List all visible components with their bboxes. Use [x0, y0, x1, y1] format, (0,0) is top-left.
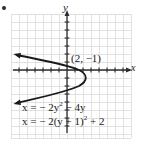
equation-vertex-suffix: + 2	[87, 115, 104, 127]
vertex-point-label: (2, −1)	[71, 53, 101, 64]
list-bullet	[2, 6, 6, 10]
equation-standard-suffix: − 4y	[63, 101, 86, 113]
equation-vertex-form: x = − 2(y + 1)2 + 2	[22, 115, 104, 127]
equation-standard-prefix: x = − 2y	[22, 101, 59, 113]
x-axis-label: x	[131, 63, 135, 73]
y-axis-label: y	[63, 2, 68, 13]
equation-vertex-prefix: x = − 2(y + 1)	[22, 115, 84, 127]
equation-standard-form: x = − 2y2 − 4y	[22, 101, 85, 113]
